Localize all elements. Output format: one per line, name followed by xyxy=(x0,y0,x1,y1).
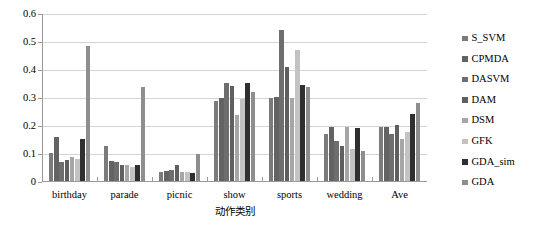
x-tick-label: parade xyxy=(97,186,152,204)
bar xyxy=(416,103,421,182)
legend-swatch-icon xyxy=(462,56,468,62)
bar xyxy=(389,134,394,182)
legend-item[interactable]: DAM xyxy=(462,90,536,111)
x-tick-label: Ave xyxy=(372,186,427,204)
legend-label: GDA xyxy=(472,177,495,188)
bar-group xyxy=(42,14,97,182)
legend-label: DAM xyxy=(472,95,497,106)
bar-group xyxy=(97,14,152,182)
bar xyxy=(175,165,180,182)
legend-item[interactable]: DSM xyxy=(462,110,536,131)
bar xyxy=(230,86,235,182)
y-tick-label: 0.4 xyxy=(23,65,36,76)
y-tick-label: 0.6 xyxy=(23,9,36,20)
bar xyxy=(290,98,295,182)
bar xyxy=(214,101,219,182)
y-tick-mark xyxy=(38,182,42,183)
bar xyxy=(240,99,245,182)
legend-label: DASVM xyxy=(472,74,510,85)
bar xyxy=(329,127,334,182)
bar xyxy=(274,97,279,182)
plot-area xyxy=(42,14,427,182)
bar xyxy=(235,115,240,182)
bar xyxy=(196,154,201,182)
legend-item[interactable]: CPMDA xyxy=(462,49,536,70)
y-tick-label: 0 xyxy=(31,177,36,188)
bar xyxy=(104,146,109,182)
bar xyxy=(141,87,146,182)
bar-group xyxy=(207,14,262,182)
bar xyxy=(334,141,339,182)
legend-label: CPMDA xyxy=(472,54,509,65)
x-axis-line xyxy=(42,181,427,182)
bar xyxy=(70,157,75,182)
bar-group xyxy=(152,14,207,182)
bar-chart: 00.10.20.30.40.50.6 birthdayparadepicnic… xyxy=(0,0,536,240)
bar xyxy=(395,125,400,182)
legend-item[interactable]: GFK xyxy=(462,131,536,152)
bar xyxy=(306,87,311,182)
bar xyxy=(59,162,64,182)
bar xyxy=(285,67,290,182)
legend-swatch-icon xyxy=(462,118,468,124)
bar xyxy=(86,46,91,182)
legend-item[interactable]: S_SVM xyxy=(462,28,536,49)
bar xyxy=(340,146,345,182)
x-tick-label: sports xyxy=(262,186,317,204)
bar xyxy=(379,127,384,182)
bar xyxy=(114,162,119,182)
bar xyxy=(279,30,284,182)
bar xyxy=(219,98,224,182)
y-axis-tick-labels: 00.10.20.30.40.50.6 xyxy=(0,14,36,182)
bar xyxy=(130,167,135,182)
y-axis-line xyxy=(42,14,43,182)
legend-item[interactable]: GDA xyxy=(462,172,536,193)
legend-item[interactable]: GDA_sim xyxy=(462,152,536,173)
legend-label: S_SVM xyxy=(472,33,506,44)
bar xyxy=(355,128,360,182)
bar xyxy=(405,132,410,182)
legend-swatch-icon xyxy=(462,180,468,186)
bar xyxy=(49,153,54,182)
bar-group xyxy=(372,14,427,182)
x-tick-label: wedding xyxy=(317,186,372,204)
legend-swatch-icon xyxy=(462,139,468,145)
bar xyxy=(410,114,415,182)
legend-swatch-icon xyxy=(462,97,468,103)
bar xyxy=(361,151,366,182)
bar xyxy=(245,83,250,182)
x-tick-label: show xyxy=(207,186,262,204)
bar xyxy=(125,165,130,182)
bar xyxy=(324,134,329,182)
bar xyxy=(109,161,114,182)
x-axis-tick-labels: birthdayparadepicnicshowsportsweddingAve xyxy=(42,186,427,204)
bar xyxy=(350,149,355,182)
bar xyxy=(224,83,229,182)
bar-group xyxy=(262,14,317,182)
legend-swatch-icon xyxy=(462,77,468,83)
bar-group xyxy=(317,14,372,182)
legend-swatch-icon xyxy=(462,159,468,165)
legend-label: DSM xyxy=(472,115,495,126)
y-tick-label: 0.2 xyxy=(23,121,36,132)
bar xyxy=(54,137,59,182)
x-tick-label: birthday xyxy=(42,186,97,204)
y-tick-label: 0.5 xyxy=(23,37,36,48)
bar xyxy=(269,98,274,182)
bar xyxy=(135,165,140,182)
legend-swatch-icon xyxy=(462,36,468,42)
legend-item[interactable]: DASVM xyxy=(462,69,536,90)
bar-groups xyxy=(42,14,427,182)
bar xyxy=(300,85,305,182)
bar xyxy=(384,127,389,182)
bar xyxy=(400,139,405,182)
x-tick-label: picnic xyxy=(152,186,207,204)
chart-legend: S_SVMCPMDADASVMDAMDSMGFKGDA_simGDA xyxy=(462,28,536,193)
legend-label: GFK xyxy=(472,136,493,147)
bar xyxy=(80,139,85,182)
bar xyxy=(65,160,70,182)
bar xyxy=(345,127,350,182)
bar xyxy=(251,92,256,182)
y-tick-label: 0.3 xyxy=(23,93,36,104)
y-tick-label: 0.1 xyxy=(23,149,36,160)
